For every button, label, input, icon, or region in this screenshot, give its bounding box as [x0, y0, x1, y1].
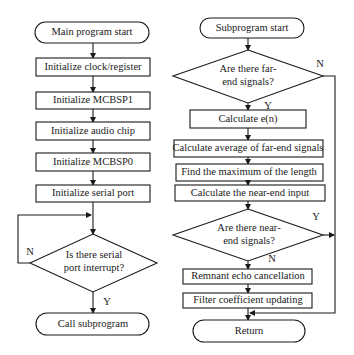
step-label: Initialize serial port [52, 187, 134, 198]
sub-start-label: Subprogram start [216, 22, 289, 33]
sub-start-terminal: Subprogram start [200, 18, 304, 38]
step-label: Initialize audio chip [51, 125, 135, 136]
decision-serial-interrupt: Is there serial port interrupt? [30, 234, 157, 292]
step-init-serial-port: Initialize serial port [36, 185, 150, 202]
decision-label-line2: port interrupt? [64, 262, 125, 273]
yes-label: Y [103, 296, 111, 307]
no-label: N [316, 58, 324, 69]
step-label: Calculate average of far-end signals [173, 142, 324, 153]
step-label: Find the maximum of the length [181, 166, 317, 177]
main-start-terminal: Main program start [35, 22, 149, 43]
step-label: Initialize MCBSP1 [53, 94, 133, 105]
step-label: Initialize clock/register [44, 61, 142, 72]
step-label: Initialize MCBSP0 [53, 156, 133, 167]
step-init-audio-chip: Initialize audio chip [36, 122, 150, 140]
return-label: Return [235, 325, 264, 336]
main-start-label: Main program start [51, 26, 132, 37]
step-label: Calculate the near-end input [191, 187, 310, 198]
decision-near-end: Are there near- end signals? [173, 209, 323, 261]
step-calc-en: Calculate e(n) [190, 110, 306, 128]
step-init-mcbsp0: Initialize MCBSP0 [36, 153, 150, 171]
subprogram-flow: Subprogram start Are there far- end sign… [173, 18, 335, 342]
main-program-flow: Main program start Initialize clock/regi… [18, 22, 157, 335]
decision-far-end: Are there far- end signals? [173, 50, 323, 103]
decision-label-line1: Is there serial [66, 249, 123, 260]
step-calc-near-end: Calculate the near-end input [175, 185, 325, 201]
step-calc-average: Calculate average of far-end signals [173, 140, 324, 157]
step-find-maximum: Find the maximum of the length [176, 164, 323, 181]
step-label: Filter coefficient updating [193, 294, 303, 305]
no-label: N [268, 253, 276, 264]
step-remnant-echo: Remnant echo cancellation [183, 269, 312, 284]
step-init-clock: Initialize clock/register [36, 58, 150, 76]
decision-label-line2: end signals? [223, 235, 275, 246]
decision-label-line1: Are there far- [220, 63, 277, 74]
call-subprogram-terminal: Call subprogram [36, 313, 149, 335]
step-filter-coefficient: Filter coefficient updating [183, 293, 312, 308]
step-label: Calculate e(n) [218, 113, 278, 125]
call-subprogram-label: Call subprogram [58, 318, 128, 329]
step-label: Remnant echo cancellation [191, 270, 305, 281]
flowchart-canvas: Main program start Initialize clock/regi… [0, 0, 354, 355]
decision-label-line2: end signals? [222, 76, 274, 87]
yes-label: Y [312, 211, 320, 222]
return-terminal: Return [193, 320, 305, 342]
step-init-mcbsp1: Initialize MCBSP1 [36, 92, 150, 109]
decision-label-line1: Are there near- [217, 222, 281, 233]
no-label: N [26, 246, 34, 257]
